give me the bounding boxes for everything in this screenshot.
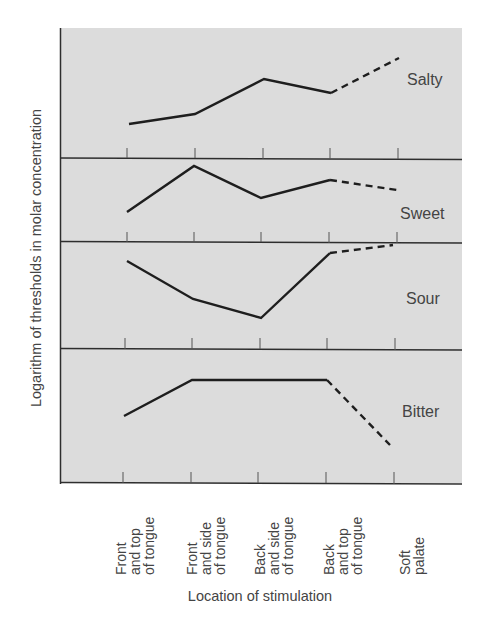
tick-label-soft-palate: Softpalate — [370, 537, 440, 575]
series-label-sweet: Sweet — [400, 205, 444, 223]
tick-label-back-top: Backand topof tongue — [294, 517, 378, 575]
x-axis-label: Location of stimulation — [188, 588, 332, 604]
y-axis-label: Logarithm of thresholds in molar concent… — [28, 109, 44, 407]
series-label-bitter: Bitter — [402, 403, 439, 421]
series-label-sour: Sour — [406, 290, 440, 308]
series-label-salty: Salty — [407, 71, 443, 89]
